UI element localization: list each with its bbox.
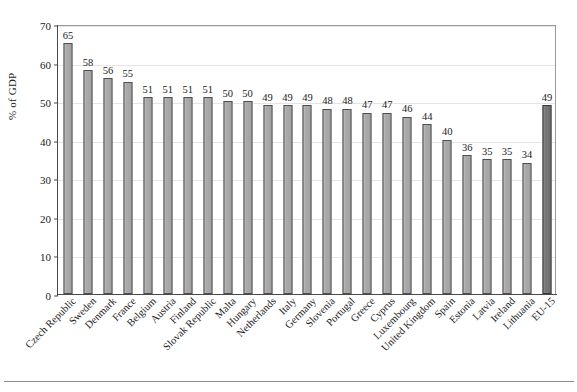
bar-slot: 51 [138, 26, 158, 294]
bar[interactable] [183, 97, 192, 294]
bar-value-label: 46 [402, 104, 413, 115]
bar-value-label: 65 [63, 31, 74, 42]
bar-value-label: 55 [123, 69, 134, 80]
bar-value-label: 49 [262, 93, 273, 104]
bar[interactable] [323, 109, 332, 294]
bar-value-label: 50 [242, 89, 253, 100]
bar-slot: 40 [437, 26, 457, 294]
bar-slot: 47 [357, 26, 377, 294]
bar[interactable] [63, 43, 72, 294]
y-axis-tick-label: 30 [0, 175, 58, 186]
bar-value-label: 51 [202, 85, 213, 96]
bar-value-label: 36 [462, 143, 473, 154]
bar[interactable] [83, 70, 92, 294]
y-axis-tick-label: 70 [0, 21, 58, 32]
x-axis-line [57, 294, 557, 295]
bar[interactable] [403, 117, 412, 294]
bar-value-label: 47 [362, 100, 373, 111]
bar[interactable] [503, 159, 512, 294]
bar-value-label: 50 [222, 89, 233, 100]
y-axis-tick-label: 10 [0, 252, 58, 263]
bar-slot: 49 [298, 26, 318, 294]
bar-slot: 58 [78, 26, 98, 294]
bar-slot: 49 [278, 26, 298, 294]
bar[interactable] [423, 124, 432, 294]
bar-slot: 65 [58, 26, 78, 294]
bar-value-label: 49 [302, 93, 313, 104]
bar-value-label: 56 [103, 66, 114, 77]
y-axis-tick-label: 40 [0, 136, 58, 147]
bar[interactable] [463, 155, 472, 294]
bar[interactable] [243, 101, 252, 294]
bar-value-label: 48 [342, 96, 353, 107]
bar-value-label: 34 [522, 150, 533, 161]
bar-value-label: 44 [422, 112, 433, 123]
bar-value-label: 35 [502, 147, 513, 158]
bar[interactable] [103, 78, 112, 294]
bar-slot: 44 [417, 26, 437, 294]
bar-slot: 49 [258, 26, 278, 294]
bar-slot: 49 [537, 26, 557, 294]
bar-slot: 35 [497, 26, 517, 294]
bar-value-label: 48 [322, 96, 333, 107]
bar[interactable] [163, 97, 172, 294]
bar-slot: 50 [218, 26, 238, 294]
bar[interactable] [123, 82, 132, 294]
bar-chart-figure: % of GDP 010203040506070 655856555151515… [0, 0, 577, 392]
bar[interactable] [483, 159, 492, 294]
footer-divider [4, 381, 574, 382]
bar[interactable] [303, 105, 312, 294]
bar-value-label: 49 [542, 93, 553, 104]
bar-slot: 50 [238, 26, 258, 294]
bar[interactable] [263, 105, 272, 294]
bar[interactable] [383, 113, 392, 294]
bar-value-label: 51 [143, 85, 154, 96]
bar[interactable] [283, 105, 292, 294]
bars-layer: 6558565551515151505049494948484747464440… [58, 26, 555, 294]
bar-value-label: 58 [83, 58, 94, 69]
y-axis-title: % of GDP [6, 73, 18, 120]
bar-slot: 56 [98, 26, 118, 294]
y-axis-tick-label: 60 [0, 59, 58, 70]
bar[interactable] [543, 105, 552, 294]
bar-slot: 36 [457, 26, 477, 294]
bar-value-label: 49 [282, 93, 293, 104]
bar[interactable] [363, 113, 372, 294]
bar-value-label: 51 [182, 85, 193, 96]
bar-value-label: 47 [382, 100, 393, 111]
bar-slot: 51 [178, 26, 198, 294]
bar-value-label: 51 [163, 85, 174, 96]
bar[interactable] [343, 109, 352, 294]
bar-slot: 51 [198, 26, 218, 294]
bar[interactable] [443, 140, 452, 294]
bar-value-label: 40 [442, 127, 453, 138]
bar-slot: 48 [317, 26, 337, 294]
plot-area: 010203040506070 655856555151515150504949… [57, 25, 556, 295]
y-axis-tick-label: 50 [0, 98, 58, 109]
bar-slot: 51 [158, 26, 178, 294]
bar-slot: 55 [118, 26, 138, 294]
bar-slot: 47 [377, 26, 397, 294]
bar[interactable] [203, 97, 212, 294]
bar-slot: 48 [337, 26, 357, 294]
bar[interactable] [143, 97, 152, 294]
bar-slot: 46 [397, 26, 417, 294]
bar[interactable] [523, 163, 532, 294]
bar-slot: 35 [477, 26, 497, 294]
bar-value-label: 35 [482, 147, 493, 158]
x-axis-category-labels: Czech RepublicSwedenDenmarkFranceBelgium… [0, 296, 577, 386]
y-axis-tick-label: 20 [0, 213, 58, 224]
bar-slot: 34 [517, 26, 537, 294]
bar[interactable] [223, 101, 232, 294]
